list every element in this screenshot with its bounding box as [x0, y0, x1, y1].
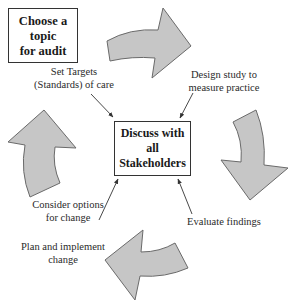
- center-box: Discuss with all Stakeholders: [114, 121, 191, 176]
- cycle-arrow-right-icon: [221, 110, 288, 200]
- pointer-targets-to-center-icon: [91, 94, 113, 117]
- pointer-design-to-center-icon: [180, 93, 193, 118]
- cycle-arrow-bottom-icon: [105, 230, 188, 300]
- center-box-line2: Stakeholders: [115, 156, 190, 171]
- audit-cycle-diagram: Choose a topic for audit Discuss with al…: [0, 0, 296, 308]
- start-box: Choose a topic for audit: [8, 8, 78, 63]
- step-label-design-study: Design study to measure practice: [189, 69, 260, 94]
- pointer-evaluate-to-center-icon: [178, 179, 192, 214]
- center-box-line1: Discuss with all: [115, 126, 190, 156]
- cycle-arrow-left-icon: [8, 110, 76, 197]
- start-box-line2: for audit: [9, 44, 77, 59]
- step-label-consider-options: Consider options for change: [32, 199, 103, 224]
- step-label-set-targets: Set Targets (Standards) of care: [34, 66, 114, 91]
- cycle-arrow-top-icon: [107, 8, 191, 78]
- step-label-plan-implement: Plan and implement change: [21, 241, 105, 266]
- step-label-evaluate: Evaluate findings: [187, 216, 261, 229]
- start-box-line1: Choose a topic: [9, 14, 77, 44]
